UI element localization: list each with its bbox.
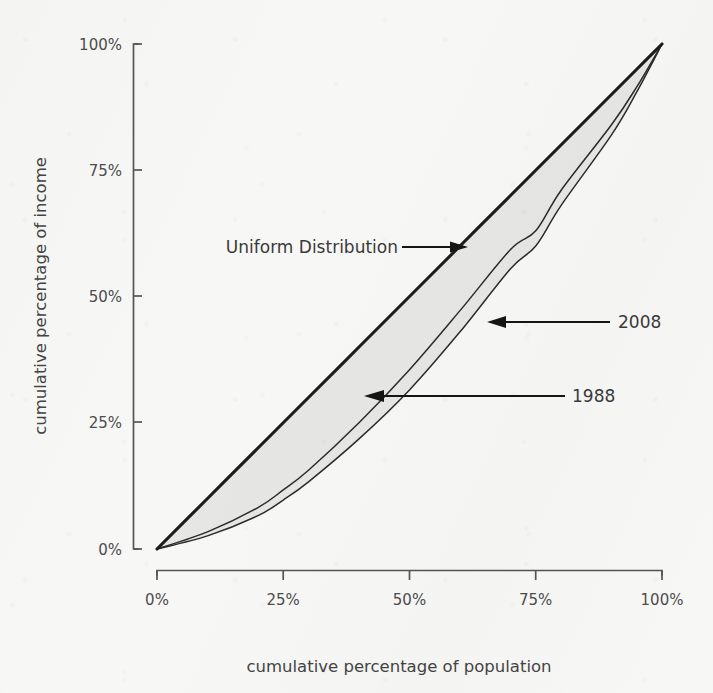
y-axis-group: 100% 75% 50% 25% 0%: [79, 36, 142, 559]
y-tick-label-0: 0%: [98, 541, 122, 559]
y-tick-label-75: 75%: [89, 162, 122, 180]
x-tick-label-0: 0%: [145, 591, 169, 609]
annotation-2008: 2008: [487, 312, 661, 332]
annotation-uniform-distribution: Uniform Distribution: [226, 237, 468, 257]
y-tick-label-50: 50%: [89, 288, 122, 306]
lorenz-curve-chart: 100% 75% 50% 25% 0% 0% 25% 50% 75% 100% …: [0, 0, 713, 693]
annotation-label-2008: 2008: [618, 312, 661, 332]
y-tick-label-100: 100%: [79, 36, 122, 54]
chart-svg: 100% 75% 50% 25% 0% 0% 25% 50% 75% 100% …: [0, 0, 713, 693]
curve-uniform-distribution: [157, 44, 662, 549]
arrowhead-left-icon: [487, 316, 506, 328]
x-axis-group: 0% 25% 50% 75% 100%: [145, 571, 683, 610]
y-axis-title: cumulative percentage of income: [31, 157, 50, 435]
annotation-label-uniform-distribution: Uniform Distribution: [226, 237, 398, 257]
x-tick-label-75: 75%: [519, 591, 552, 609]
x-tick-label-100: 100%: [641, 591, 684, 609]
x-tick-label-25: 25%: [267, 591, 300, 609]
y-tick-label-25: 25%: [89, 414, 122, 432]
annotation-label-1988: 1988: [572, 386, 615, 406]
x-axis-title: cumulative percentage of population: [246, 657, 551, 676]
x-tick-label-50: 50%: [393, 591, 426, 609]
